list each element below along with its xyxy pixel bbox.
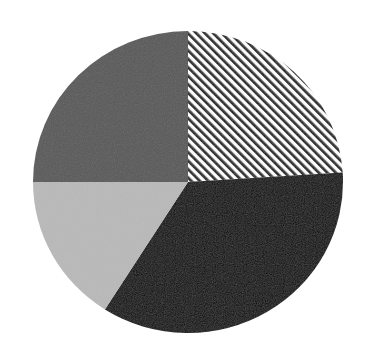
pie-chart — [0, 0, 371, 337]
pie-slice-4 — [33, 31, 188, 182]
pie-slice-1 — [188, 31, 343, 182]
